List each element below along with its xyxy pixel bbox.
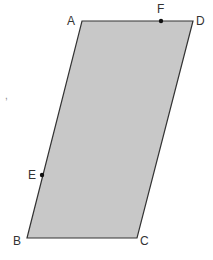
point-f-dot	[159, 19, 163, 23]
point-label-e: E	[28, 168, 36, 182]
parallelogram-diagram: A D F E B C ,	[0, 0, 213, 260]
vertex-label-d: D	[196, 14, 205, 28]
point-label-f: F	[157, 2, 164, 16]
vertex-label-a: A	[67, 14, 75, 28]
point-e-dot	[40, 173, 44, 177]
vertex-label-c: C	[140, 234, 149, 248]
vertex-label-b: B	[13, 234, 21, 248]
stray-mark: ,	[5, 90, 8, 101]
parallelogram-abcd	[27, 21, 193, 238]
